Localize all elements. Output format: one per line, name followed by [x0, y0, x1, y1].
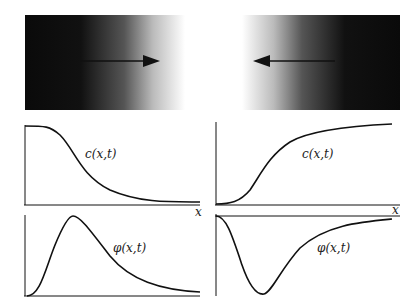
- plot-bottom-left: [24, 215, 200, 296]
- plot-bottom-right: [215, 214, 400, 296]
- curve-label-phi-left: φ(x,t): [113, 241, 146, 255]
- plot-top-left: [24, 125, 200, 205]
- diagram-canvas: c(x,t) x c(x,t) x φ(x,t) φ(x,t): [0, 0, 419, 307]
- arrow-right-icon: [80, 55, 160, 67]
- axis-label-x-right: x: [392, 203, 399, 217]
- plot-top-right: [215, 122, 400, 205]
- arrow-left-icon: [253, 55, 335, 67]
- curve-label-phi-right: φ(x,t): [317, 241, 350, 255]
- curve-label-c-left: c(x,t): [85, 147, 117, 161]
- curve-label-c-right: c(x,t): [302, 147, 334, 161]
- axis-label-x-left: x: [195, 205, 202, 219]
